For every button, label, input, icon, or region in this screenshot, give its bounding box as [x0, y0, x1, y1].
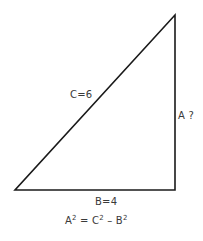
- formula-minus-b: – B: [104, 215, 123, 226]
- formula-exponent: 2: [99, 214, 104, 222]
- base-label: B=4: [95, 197, 117, 207]
- vertical-side-label: A ?: [178, 111, 194, 121]
- hypotenuse-label: C=6: [70, 90, 92, 100]
- formula-exponent: 2: [123, 214, 128, 222]
- formula-a: A: [65, 215, 72, 226]
- pythagorean-formula: A2 = C2 – B2: [65, 216, 128, 226]
- formula-exponent: 2: [72, 214, 77, 222]
- right-triangle: [15, 15, 175, 190]
- formula-equals-c: = C: [77, 215, 100, 226]
